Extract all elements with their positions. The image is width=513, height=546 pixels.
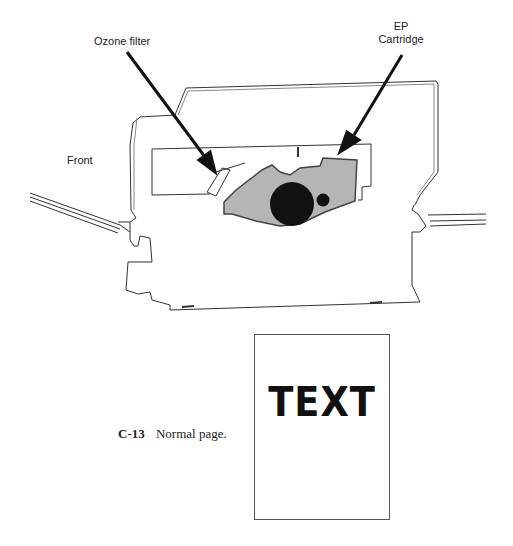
figure-caption: C-13 Normal page. [118, 426, 227, 442]
ep-cartridge-arrow [340, 55, 402, 152]
ozone-filter-arrow [127, 52, 215, 172]
figure-number: C-13 [118, 426, 145, 441]
ep-cartridge-label-line1: EP [366, 20, 436, 33]
ep-cartridge-label-line2: Cartridge [366, 33, 436, 46]
figure-caption-text: Normal page. [156, 426, 227, 441]
printer-front-housing [118, 115, 175, 222]
roller [317, 194, 330, 207]
ep-cartridge [224, 158, 357, 226]
front-paper-tray [30, 193, 130, 233]
rear-paper-tray [428, 214, 486, 226]
ep-cartridge-label: EP Cartridge [366, 20, 436, 46]
sample-page: TEXT [254, 334, 390, 520]
front-label: Front [67, 154, 93, 167]
ozone-filter-label: Ozone filter [94, 35, 150, 48]
sample-page-text: TEXT [260, 379, 383, 425]
drum [270, 182, 314, 226]
